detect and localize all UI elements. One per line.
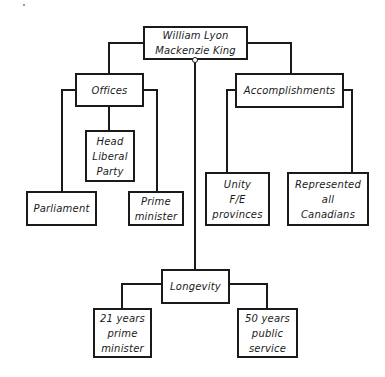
node-unity-provinces: Unity F/E provinces	[205, 172, 270, 226]
node-prime-minister-label: Prime minister	[135, 194, 178, 224]
connector-root-longevity	[194, 58, 196, 270]
connector-root-right	[246, 42, 292, 44]
connector-offices-left	[61, 89, 76, 91]
junction-circle	[192, 57, 198, 63]
node-root-label: William Lyon Mackenzie King	[155, 28, 236, 58]
connector-accomplishments-unity	[226, 89, 228, 173]
node-accomplishments: Accomplishments	[235, 73, 344, 108]
connector-accomplishments-represented	[351, 89, 353, 173]
node-50-years-public-service-label: 50 years public service	[245, 311, 290, 356]
node-longevity: Longevity	[161, 269, 230, 304]
connector-longevity-21-years	[121, 283, 123, 309]
node-root: William Lyon Mackenzie King	[143, 26, 248, 60]
connector-offices-head-liberal	[108, 105, 110, 131]
connector-root-accomplishments	[290, 42, 292, 74]
node-accomplishments-label: Accomplishments	[244, 83, 336, 98]
node-prime-minister: Prime minister	[128, 191, 184, 226]
connector-offices-parliament	[61, 89, 63, 192]
node-represented-all-canadians-label: Represented all Canadians	[295, 177, 361, 222]
node-offices: Offices	[75, 73, 144, 107]
node-represented-all-canadians: Represented all Canadians	[287, 172, 369, 226]
node-parliament-label: Parliament	[33, 201, 89, 216]
connector-root-offices	[108, 42, 110, 74]
node-offices-label: Offices	[92, 83, 128, 98]
node-21-years-prime-minister: 21 years prime minister	[93, 308, 152, 358]
node-longevity-label: Longevity	[170, 279, 221, 294]
connector-longevity-left	[121, 283, 162, 285]
connector-offices-prime-minister	[156, 89, 158, 192]
node-unity-provinces-label: Unity F/E provinces	[212, 177, 262, 222]
connector-root-left	[108, 42, 144, 44]
concept-map: William Lyon Mackenzie King Offices Acco…	[0, 0, 385, 377]
connector-longevity-50-years	[266, 283, 268, 309]
node-50-years-public-service: 50 years public service	[237, 308, 298, 358]
connector-longevity-right	[228, 283, 268, 285]
scan-speck	[23, 4, 25, 6]
node-parliament: Parliament	[26, 191, 97, 226]
node-head-liberal-party-label: Head Liberal Party	[92, 134, 127, 179]
node-21-years-prime-minister-label: 21 years prime minister	[100, 311, 145, 356]
node-head-liberal-party: Head Liberal Party	[85, 130, 135, 182]
